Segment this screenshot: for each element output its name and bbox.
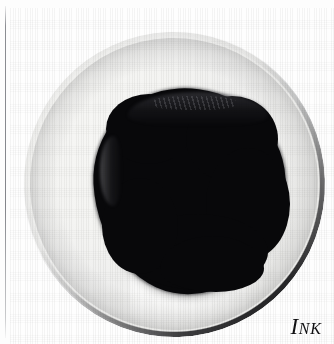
- photograph: [10, 8, 334, 344]
- caption-initial: I: [290, 314, 298, 339]
- ink-pool-lobe-bottom-right: [160, 236, 264, 292]
- ink-surface-reflection: [152, 96, 236, 110]
- caption-remainder: NK: [299, 320, 322, 337]
- figure-page: INK: [0, 0, 334, 344]
- ink-sheen-left-edge: [100, 136, 122, 206]
- vertical-margin-rule: [5, 6, 6, 338]
- figure-caption: INK: [290, 315, 322, 338]
